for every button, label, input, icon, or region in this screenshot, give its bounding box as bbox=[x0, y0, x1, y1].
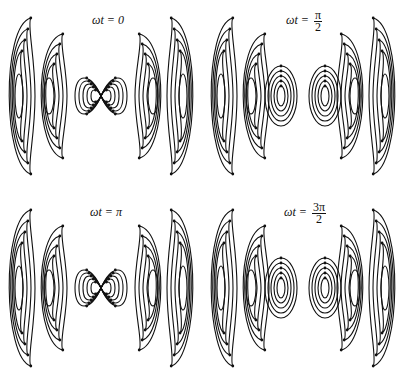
field-lines-phase-pi bbox=[0, 192, 202, 384]
phase-label-3pi-2: ωt = 3π2 bbox=[284, 202, 326, 225]
panel-phase-pi: ωt = π bbox=[0, 192, 202, 384]
fraction: 3π2 bbox=[312, 202, 326, 225]
phase-label-pi: ωt = π bbox=[90, 205, 122, 220]
panel-phase-pi-2: ωt = π2 bbox=[202, 0, 404, 192]
phase-label-0: ωt = 0 bbox=[92, 13, 124, 28]
phase-label-pi-2: ωt = π2 bbox=[286, 10, 322, 33]
panel-phase-0: ωt = 0 bbox=[0, 0, 202, 192]
field-lines-phase-0 bbox=[0, 0, 202, 192]
panel-phase-3pi-2: ωt = 3π2 bbox=[202, 192, 404, 384]
fraction: π2 bbox=[314, 10, 322, 33]
